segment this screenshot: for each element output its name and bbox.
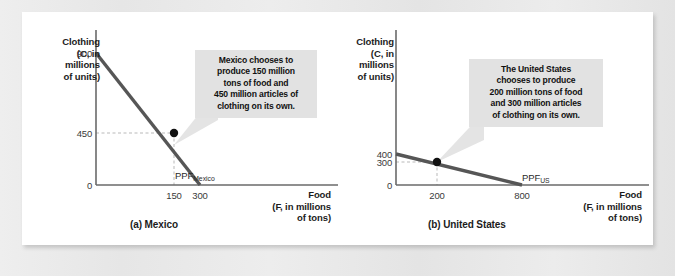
us-callout-line-4: and 300 million articles bbox=[475, 98, 597, 109]
us-x-tick-200: 200 bbox=[417, 190, 457, 201]
mexico-callout-line-2: produce 150 million bbox=[201, 66, 311, 77]
panel-united-states: Clothing(C, inmillionsof units) 400 300 … bbox=[332, 12, 653, 245]
us-y-axis-title-line-4: of units) bbox=[357, 71, 394, 82]
mexico-choice-point bbox=[170, 129, 178, 137]
mexico-y-tick-900: 900 bbox=[52, 48, 92, 59]
us-y-axis-title-line-1: Clothing bbox=[356, 36, 394, 47]
mexico-callout-line-3: tons of food and bbox=[201, 78, 311, 89]
us-callout-line-1: The United States bbox=[475, 64, 597, 75]
us-ppf-label-subscript: US bbox=[540, 177, 549, 184]
us-callout: The United States chooses to produce 200… bbox=[469, 59, 603, 127]
mexico-callout: Mexico chooses to produce 150 million to… bbox=[195, 50, 317, 118]
us-y-tick-0: 0 bbox=[352, 180, 392, 191]
mexico-ppf-label-text: PPF bbox=[175, 170, 193, 181]
us-callout-line-2: chooses to produce bbox=[475, 75, 597, 86]
mexico-y-axis-title: Clothing(C, inmillionsof units) bbox=[52, 36, 100, 82]
us-panel-caption: (b) United States bbox=[428, 219, 506, 230]
panel-mexico: Clothing(C, inmillionsof units) 900 450 … bbox=[22, 12, 342, 245]
mexico-x-axis-title-line-2: (F, in millions bbox=[272, 201, 331, 212]
mexico-x-tick-300: 300 bbox=[180, 190, 220, 201]
us-ppf-label-text: PPF bbox=[522, 172, 540, 183]
mexico-x-axis-title: Food(F, in millionsof tons) bbox=[227, 189, 331, 224]
mexico-ppf-label: PPFMexico bbox=[175, 170, 215, 181]
mexico-ppf-line bbox=[96, 53, 200, 185]
mexico-x-axis-title-line-1: Food bbox=[308, 189, 331, 200]
us-ppf-label: PPFUS bbox=[522, 172, 550, 183]
mexico-y-axis-title-line-4: of units) bbox=[63, 71, 100, 82]
figure-root: Clothing(C, inmillionsof units) 900 450 … bbox=[0, 0, 675, 276]
figure-card: Clothing(C, inmillionsof units) 900 450 … bbox=[22, 12, 653, 245]
mexico-y-axis-title-line-1: Clothing bbox=[62, 36, 100, 47]
us-x-axis-title-line-2: (F, in millions bbox=[583, 201, 642, 212]
us-x-axis-title-line-3: of tons) bbox=[608, 212, 642, 223]
mexico-y-tick-450: 450 bbox=[52, 128, 92, 139]
us-y-axis-title-line-2: (C, in bbox=[371, 48, 394, 59]
us-callout-line-3: 200 million tons of food bbox=[475, 87, 597, 98]
us-y-tick-300: 300 bbox=[352, 157, 392, 168]
mexico-y-axis-title-line-3: millions bbox=[65, 59, 100, 70]
mexico-panel-caption: (a) Mexico bbox=[130, 219, 178, 230]
mexico-callout-line-1: Mexico chooses to bbox=[201, 55, 311, 66]
us-x-axis-title: Food(F, in millionsof tons) bbox=[538, 189, 642, 224]
us-ppf-line bbox=[396, 154, 522, 185]
us-y-axis-title-line-3: millions bbox=[359, 59, 394, 70]
mexico-ppf-label-subscript: Mexico bbox=[193, 175, 215, 182]
mexico-y-tick-0: 0 bbox=[52, 180, 92, 191]
us-x-axis-title-line-1: Food bbox=[619, 189, 642, 200]
us-callout-line-5: of clothing on its own. bbox=[475, 110, 597, 121]
us-x-tick-800: 800 bbox=[502, 190, 542, 201]
us-y-axis-title: Clothing(C, inmillionsof units) bbox=[350, 36, 394, 82]
us-choice-point bbox=[433, 158, 441, 166]
mexico-x-axis-title-line-3: of tons) bbox=[297, 212, 331, 223]
mexico-callout-line-5: clothing on its own. bbox=[201, 101, 311, 112]
mexico-callout-line-4: 450 million articles of bbox=[201, 89, 311, 100]
